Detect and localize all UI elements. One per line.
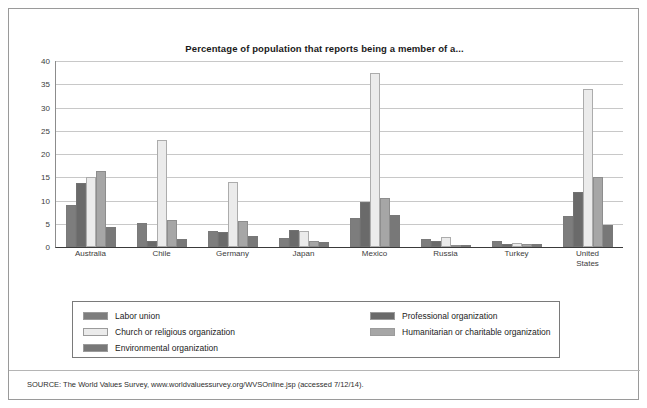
legend-item-label: Professional organization — [402, 311, 497, 321]
bar — [583, 89, 593, 247]
bar — [238, 221, 248, 247]
bar — [76, 183, 86, 247]
bar-group — [269, 61, 340, 247]
legend-column-left: Labor unionChurch or religious organizat… — [83, 309, 370, 354]
bar-group — [56, 61, 127, 247]
legend-item[interactable]: Professional organization — [370, 309, 553, 322]
bar-group — [340, 61, 411, 247]
x-axis-tick-label: Mexico — [339, 249, 410, 268]
bar — [177, 239, 187, 247]
x-axis: AustraliaChileGermanyJapanMexicoRussiaTu… — [55, 249, 623, 268]
legend-swatch-icon — [83, 328, 108, 336]
bar-group — [481, 61, 552, 247]
legend-item-label: Church or religious organization — [115, 327, 235, 337]
page-title: Percentage of population that reports be… — [9, 43, 640, 54]
bar — [228, 182, 238, 247]
grid-area — [55, 61, 623, 248]
legend-item[interactable]: Church or religious organization — [83, 325, 370, 338]
bar — [593, 177, 603, 247]
bar — [86, 177, 96, 247]
y-axis-tick-label: 10 — [41, 196, 50, 205]
bar-group — [198, 61, 269, 247]
bar — [96, 171, 106, 247]
source-note: SOURCE: The World Values Survey, www.wor… — [27, 380, 364, 389]
y-axis: 0510152025303540 — [31, 61, 53, 247]
bar — [279, 238, 289, 247]
bar — [167, 220, 177, 247]
bar — [563, 216, 573, 247]
bar — [319, 242, 329, 247]
bar — [370, 73, 380, 247]
bar-group — [127, 61, 198, 247]
bar — [106, 227, 116, 247]
bar — [492, 241, 502, 247]
bar — [451, 245, 461, 247]
legend-column-right: Professional organizationHumanitarian or… — [370, 309, 553, 354]
bar — [137, 223, 147, 247]
bar — [390, 215, 400, 247]
legend-item-label: Labor union — [115, 311, 160, 321]
bar — [603, 225, 613, 247]
x-axis-tick-label: Chile — [126, 249, 197, 268]
bar — [573, 192, 583, 247]
legend-columns: Labor unionChurch or religious organizat… — [83, 309, 553, 354]
legend-item-label: Humanitarian or charitable organization — [402, 327, 550, 337]
x-axis-tick-label: United States — [552, 249, 623, 268]
bar-group — [410, 61, 481, 247]
bar — [431, 241, 441, 247]
bar — [289, 230, 299, 247]
x-axis-tick-label: Turkey — [481, 249, 552, 268]
bar — [66, 205, 76, 247]
legend-item[interactable]: Humanitarian or charitable organization — [370, 325, 553, 338]
bar — [461, 245, 471, 247]
bar — [512, 243, 522, 247]
y-axis-tick-label: 25 — [41, 126, 50, 135]
bar — [157, 140, 167, 247]
y-axis-tick-label: 30 — [41, 103, 50, 112]
legend-item[interactable]: Labor union — [83, 309, 370, 322]
source-divider — [9, 370, 640, 371]
legend-item[interactable]: Environmental organization — [83, 341, 370, 354]
bar — [502, 244, 512, 247]
legend-swatch-icon — [83, 312, 108, 320]
legend-item-label: Environmental organization — [115, 343, 218, 353]
x-axis-tick-label: Germany — [197, 249, 268, 268]
bar-groups — [56, 61, 623, 247]
legend-swatch-icon — [370, 312, 395, 320]
bar — [218, 232, 228, 247]
y-axis-tick-label: 15 — [41, 173, 50, 182]
bar — [147, 241, 157, 247]
x-axis-tick-label: Japan — [268, 249, 339, 268]
y-axis-tick-label: 20 — [41, 150, 50, 159]
chart-frame: Percentage of population that reports be… — [8, 8, 639, 400]
bar — [208, 231, 218, 247]
x-axis-tick-label: Australia — [55, 249, 126, 268]
bar — [299, 231, 309, 247]
y-axis-tick-label: 40 — [41, 57, 50, 66]
y-axis-tick-label: 5 — [46, 219, 50, 228]
legend: Labor unionChurch or religious organizat… — [72, 301, 560, 358]
x-axis-tick-label: Russia — [410, 249, 481, 268]
bar — [248, 236, 258, 247]
bar — [309, 241, 319, 248]
bar — [532, 244, 542, 247]
legend-swatch-icon — [83, 344, 108, 352]
bar — [522, 244, 532, 247]
bar — [441, 237, 451, 247]
bar-group — [552, 61, 623, 247]
y-axis-tick-label: 35 — [41, 80, 50, 89]
legend-swatch-icon — [370, 328, 395, 336]
bar — [350, 218, 360, 247]
plot-area: 0510152025303540 AustraliaChileGermanyJa… — [31, 61, 623, 259]
y-axis-tick-label: 0 — [46, 243, 50, 252]
chart-page: Percentage of population that reports be… — [0, 0, 647, 408]
bar — [360, 202, 370, 247]
bar — [380, 198, 390, 247]
bar — [421, 239, 431, 247]
